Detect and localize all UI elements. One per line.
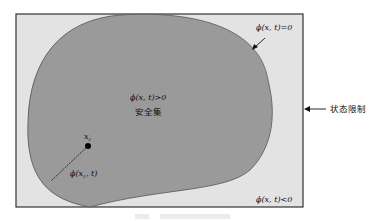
safe-set-diagram: ϕ(x, t)=0 ϕ(x, t)>0 安全集 xc ϕ(xc, t) ϕ(x,… (0, 0, 379, 221)
state-constraint-label: 状态限制 (330, 104, 366, 114)
constraint-arrowhead (304, 106, 310, 112)
boundary-label: ϕ(x, t)=0 (256, 23, 292, 32)
figure-caption (135, 214, 230, 219)
outside-label: ϕ(x, t)<0 (256, 195, 292, 204)
safe-set-label: 安全集 (135, 107, 162, 117)
inside-label: ϕ(x, t)>0 (130, 93, 166, 102)
